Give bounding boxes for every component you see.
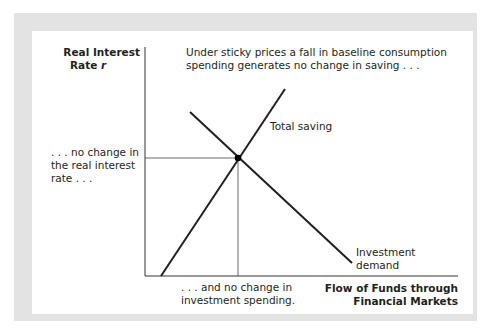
equilibrium-point bbox=[235, 155, 242, 162]
left-note: . . . no change in the real interest rat… bbox=[51, 146, 139, 185]
investment-demand-label: Investment demand bbox=[356, 246, 415, 272]
title-note-line1: Under sticky prices a fall in baseline c… bbox=[186, 46, 447, 59]
investment-demand-label-line2: demand bbox=[356, 259, 415, 272]
left-note-line1: . . . no change in bbox=[51, 146, 139, 159]
bottom-note-line1: . . . and no change in bbox=[181, 281, 295, 294]
x-axis-label-line2: Financial Markets bbox=[320, 295, 458, 308]
bottom-note-line2: investment spending. bbox=[181, 294, 295, 307]
x-axis-label: Flow of Funds through Financial Markets bbox=[320, 282, 458, 308]
bottom-note: . . . and no change in investment spendi… bbox=[181, 281, 295, 307]
investment-demand-curve bbox=[190, 112, 352, 263]
y-axis-label-text: Rate bbox=[70, 59, 101, 71]
y-axis-label-line2: Rate r bbox=[62, 59, 140, 72]
title-note-line2: spending generates no change in saving .… bbox=[186, 59, 447, 72]
x-axis-label-line1: Flow of Funds through bbox=[320, 282, 458, 295]
investment-demand-label-line1: Investment bbox=[356, 246, 415, 259]
total-saving-label: Total saving bbox=[270, 120, 332, 133]
left-note-line3: rate . . . bbox=[51, 172, 139, 185]
y-axis-label: Real Interest Rate r bbox=[62, 46, 140, 72]
y-axis-variable: r bbox=[101, 59, 106, 71]
title-note: Under sticky prices a fall in baseline c… bbox=[186, 46, 447, 72]
y-axis-label-line1: Real Interest bbox=[62, 46, 140, 59]
left-note-line2: the real interest bbox=[51, 159, 139, 172]
